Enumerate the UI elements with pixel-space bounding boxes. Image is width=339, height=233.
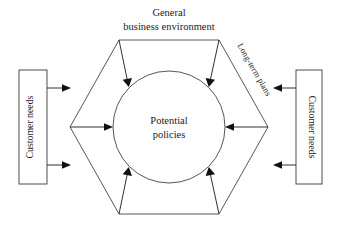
arrow-from-bottom-left: [119, 167, 132, 214]
arrow-from-top-left: [119, 40, 132, 87]
left-box-arrow-upper: [47, 84, 71, 92]
center-label-line-1: Potential: [150, 115, 187, 126]
arrow-from-top-right: [206, 40, 219, 87]
arrow-from-bottom-right: [206, 167, 219, 214]
diagram-canvas: Customer needs Customer needs General bu…: [0, 0, 339, 233]
arrow-from-left: [70, 123, 113, 131]
center-circle: [113, 71, 225, 183]
arrow-from-right: [225, 123, 268, 131]
right-box-arrow-upper: [273, 84, 296, 92]
diagram-container: Customer needs Customer needs General bu…: [0, 0, 339, 233]
right-customer-needs-label: Customer needs: [307, 96, 318, 159]
left-box-arrow-lower: [47, 161, 71, 169]
long-term-plans-label: Long-term plans: [235, 41, 274, 98]
left-customer-needs-label: Customer needs: [24, 95, 35, 158]
top-label-line-1: General: [152, 7, 185, 18]
right-box-arrow-lower: [273, 161, 296, 169]
center-label-line-2: policies: [153, 129, 186, 140]
top-label-line-2: business environment: [123, 21, 214, 32]
